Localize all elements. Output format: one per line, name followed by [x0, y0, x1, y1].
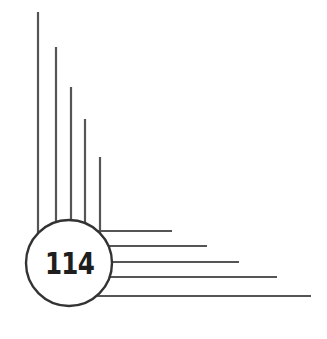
page-number-ornament: 114 — [0, 0, 327, 339]
page-number: 114 — [34, 219, 105, 307]
